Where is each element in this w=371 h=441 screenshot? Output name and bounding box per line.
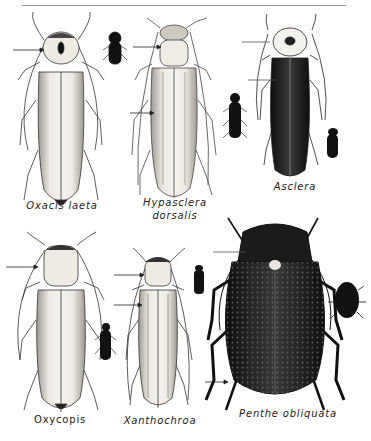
arrow-pointer	[6, 265, 38, 269]
label-oxycopis: Oxycopis	[20, 414, 100, 426]
label-dorsalis: dorsalis	[130, 210, 220, 222]
silhouette-small	[327, 128, 338, 158]
label-hypasclera: Hypasclera	[130, 197, 220, 209]
label-xanthochroa: Xanthochroa	[115, 415, 205, 427]
beetle-hypasclera-dorsalis	[132, 18, 216, 198]
label-penthe-obliquata: Penthe obliquata	[228, 408, 348, 420]
beetle-oxacis-laeta	[18, 12, 127, 205]
silhouette-small	[95, 323, 116, 360]
beetle-asclera	[256, 14, 326, 176]
arrow-pointer	[205, 380, 228, 384]
label-asclera: Asclera	[265, 181, 325, 193]
label-oxacis-laeta: Oxacis laeta	[24, 200, 100, 212]
beetle-oxycopis	[18, 232, 104, 412]
beetle-xanthochroa	[126, 248, 192, 408]
silhouette-small	[194, 265, 204, 294]
arrow-pointer	[13, 48, 44, 52]
silhouette-small	[223, 93, 247, 138]
